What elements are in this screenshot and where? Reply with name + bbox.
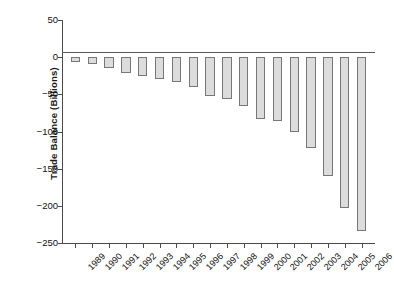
bar: [172, 57, 181, 82]
y-tick-mark: [58, 169, 63, 170]
x-tick-label: 1993: [154, 251, 175, 272]
bar: [121, 57, 130, 73]
x-tick-mark: [328, 244, 329, 248]
x-tick-mark: [277, 244, 278, 248]
x-tick-label: 2003: [322, 251, 343, 272]
y-tick-mark: [58, 20, 63, 21]
bar: [256, 57, 265, 119]
x-tick-mark: [227, 244, 228, 248]
y-tick-label: −150: [37, 163, 58, 174]
x-tick-mark: [193, 244, 194, 248]
bar: [222, 57, 231, 99]
y-tick-label: −100: [37, 126, 58, 137]
bar: [88, 57, 97, 64]
x-tick-label: 2002: [305, 251, 326, 272]
x-tick-label: 2005: [356, 251, 377, 272]
x-tick-mark: [109, 244, 110, 248]
bar: [104, 57, 113, 67]
x-tick-mark: [244, 244, 245, 248]
x-tick-label: 2006: [372, 251, 393, 272]
x-tick-label: 1991: [120, 251, 141, 272]
x-tick-mark: [176, 244, 177, 248]
x-tick-mark: [210, 244, 211, 248]
x-tick-label: 1999: [255, 251, 276, 272]
bar: [189, 57, 198, 87]
y-tick-label: −200: [37, 200, 58, 211]
bar: [155, 57, 164, 79]
bar: [239, 57, 248, 106]
y-tick-label: 0: [53, 51, 58, 62]
y-tick-mark: [58, 206, 63, 207]
plot-area: 500−50−100−150−200−250 19891990199119921…: [62, 20, 375, 244]
bar: [340, 57, 349, 208]
bar: [357, 57, 366, 231]
x-tick-mark: [92, 244, 93, 248]
y-tick-mark: [58, 243, 63, 244]
y-tick-mark: [58, 132, 63, 133]
y-tick-label: −250: [37, 237, 58, 248]
bar: [290, 57, 299, 132]
bar: [323, 57, 332, 176]
y-tick-mark: [58, 94, 63, 95]
x-tick-label: 1995: [187, 251, 208, 272]
zero-reference-line: [62, 52, 375, 53]
x-tick-label: 1997: [221, 251, 242, 272]
x-tick-label: 2001: [288, 251, 309, 272]
x-tick-mark: [362, 244, 363, 248]
x-tick-mark: [261, 244, 262, 248]
y-tick-label: 50: [47, 14, 58, 25]
bar: [205, 57, 214, 96]
y-tick-mark: [58, 57, 63, 58]
bar: [138, 57, 147, 76]
x-tick-label: 1998: [238, 251, 259, 272]
bar: [306, 57, 315, 148]
x-tick-mark: [345, 244, 346, 248]
bar: [71, 57, 80, 62]
x-tick-label: 1989: [86, 251, 107, 272]
x-tick-mark: [311, 244, 312, 248]
y-tick-label: −50: [42, 88, 58, 99]
x-tick-label: 1992: [137, 251, 158, 272]
x-tick-mark: [126, 244, 127, 248]
x-tick-label: 2004: [339, 251, 360, 272]
x-tick-mark: [75, 244, 76, 248]
x-tick-label: 1996: [204, 251, 225, 272]
bar: [273, 57, 282, 121]
x-tick-label: 1990: [103, 251, 124, 272]
x-tick-mark: [294, 244, 295, 248]
x-tick-mark: [160, 244, 161, 248]
x-tick-mark: [143, 244, 144, 248]
